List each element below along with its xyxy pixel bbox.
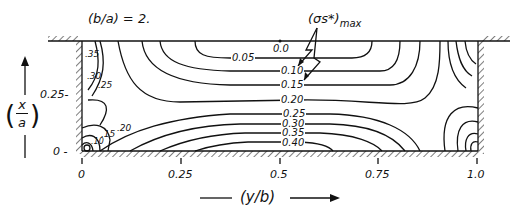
ratio-label: (b/a) = 2.: [88, 12, 150, 25]
y-tick-0: 0 -: [53, 146, 67, 157]
x-tick-1.0: 1.0: [467, 169, 485, 180]
y-axis-num: x: [16, 98, 28, 111]
contour-label-left: .35: [85, 50, 99, 59]
contour-plot: [0, 0, 514, 214]
x-tick-0.75: 0.75: [365, 169, 390, 180]
contour-label-left: .20: [117, 124, 131, 133]
y-axis-label: ( x a ): [8, 98, 28, 130]
contour-label-left: .25: [98, 81, 112, 90]
y-tick-0.25: 0.25-: [40, 89, 68, 100]
contour-figure: (b/a) = 2. (σs*)max 0.0 0.05 0.10 0.15 0…: [0, 0, 514, 214]
contour-label: 0.15: [280, 80, 304, 90]
contour-right-3: [465, 41, 476, 64]
right-wall-hatch: [478, 41, 484, 154]
contour-label-left: .10: [91, 138, 104, 146]
contour-left-corner-loop: [84, 145, 90, 151]
contour-0.40: [195, 142, 333, 151]
x-axis-arrowhead: [330, 194, 340, 202]
y-axis-den: a: [16, 116, 28, 129]
contour-right-corner-1: [444, 107, 478, 151]
bottom-wall-hatch: [82, 151, 478, 157]
contour-label: 0.05: [231, 53, 255, 63]
contour-label: 0.20: [280, 95, 304, 105]
top-left-hatch: [48, 36, 78, 41]
annotation-arrow-to-0.15: [304, 28, 320, 80]
max-label: (σs*)max: [308, 12, 361, 29]
x-tick-0: 0: [78, 169, 85, 180]
max-label-subscript: max: [340, 18, 362, 29]
x-axis-label: (y/b): [240, 190, 275, 205]
contour-label: 0.0: [272, 44, 290, 54]
top-right-hatch: [482, 36, 510, 41]
y-axis-arrowhead: [21, 56, 29, 66]
contour-right-2: [456, 41, 472, 76]
contour-left-bulge: [88, 100, 106, 125]
max-label-text: (σs*): [308, 11, 340, 26]
left-wall-hatch: [76, 41, 82, 154]
contour-label: 0.10: [280, 66, 304, 76]
contour-label: 0.40: [281, 138, 305, 148]
contour-right-corner-4: [471, 142, 478, 151]
x-tick-0.25: 0.25: [168, 169, 193, 180]
x-tick-0.5: 0.5: [270, 169, 288, 180]
